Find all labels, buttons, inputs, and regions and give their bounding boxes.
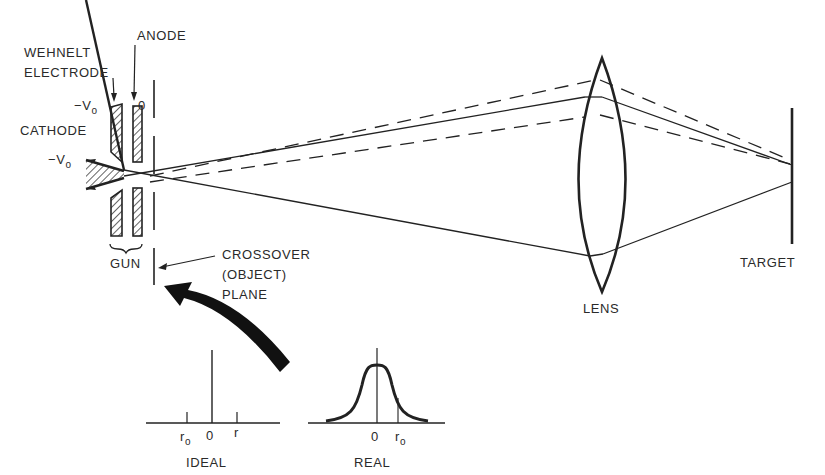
crossover-label-line3: PLANE (222, 287, 268, 302)
ideal-title: IDEAL (186, 455, 227, 470)
lens-label: LENS (583, 301, 619, 316)
anode-label: ANODE (137, 28, 186, 43)
ideal-distribution-inset: ro 0 r IDEAL (146, 350, 280, 470)
real-distribution-inset: 0 ro REAL (308, 348, 445, 470)
wehnelt-label-line2: ELECTRODE (24, 65, 109, 80)
ideal-tick-ro: ro (180, 429, 191, 447)
wehnelt-electrode-lower (111, 190, 122, 236)
wehnelt-potential: −Vo (74, 98, 98, 116)
anode-lower (133, 188, 142, 236)
crossover-label-line1: CROSSOVER (222, 247, 310, 262)
real-tick-zero: 0 (371, 429, 379, 444)
anode-upper (133, 106, 142, 162)
lens-shape (579, 58, 626, 292)
gun-label: GUN (110, 256, 141, 271)
electron-rays (124, 80, 792, 256)
wehnelt-label-line1: WEHNELT (24, 45, 91, 60)
cathode-label: CATHODE (20, 123, 87, 138)
gun-brace (110, 244, 142, 253)
real-title: REAL (354, 455, 390, 470)
anode-potential: 0 (138, 98, 146, 113)
electron-optics-diagram: ANODE WEHNELT ELECTRODE −Vo 0 CATHODE −V… (0, 0, 825, 475)
target-label: TARGET (740, 255, 795, 270)
cathode-potential: −Vo (48, 152, 72, 170)
ideal-tick-zero: 0 (206, 428, 214, 443)
pointer-arrows (111, 45, 215, 270)
real-tick-ro: ro (395, 429, 406, 447)
ideal-tick-r: r (234, 425, 239, 440)
crossover-label-line2: (OBJECT) (222, 267, 287, 282)
